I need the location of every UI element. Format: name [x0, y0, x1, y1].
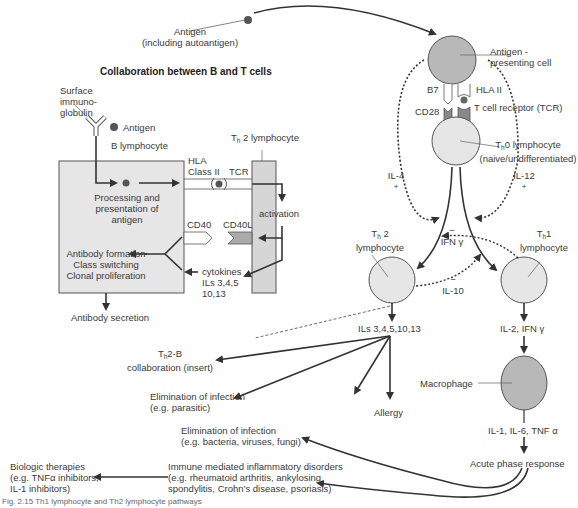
cd40-label: CD40 — [187, 219, 211, 230]
cd40l-label: CD40L — [223, 219, 253, 230]
acute-phase-label: Acute phase response — [470, 458, 565, 469]
antigen-dot-icon — [110, 123, 118, 131]
imid-label: Immune mediated inflammatory disorders(e… — [168, 461, 343, 494]
il4-label: IL-4+ — [381, 170, 411, 192]
to-elim-parasitic-arrow — [235, 336, 390, 398]
macrophage-cytokines-label: IL-1, IL-6, TNF α — [488, 425, 558, 436]
ifn-gamma-label: −IFN γ — [437, 225, 467, 247]
processing-label: Processing andpresentation ofantigen — [92, 192, 162, 225]
insert-antigen-label: Antigen — [123, 122, 155, 133]
th2-cytokines-label: ILs 3,4,5,10,13 — [358, 323, 421, 334]
b7-label: B7 — [427, 84, 439, 95]
to-th2b-arrow — [217, 336, 390, 360]
b-lymphocyte-label: B lymphocyte — [111, 140, 168, 151]
th2-lymphocyte-box — [252, 161, 276, 293]
antigen-presenting-cell — [428, 36, 476, 84]
antibody-secretion-label: Antibody secretion — [71, 312, 149, 323]
th1-label: Th1 lymphocyte — [514, 228, 574, 253]
th0-label: Th0 lymphocyte (naive/undifferentiated) — [478, 139, 578, 164]
hla-class-ii-label: HLAClass II — [188, 155, 220, 177]
activation-label: activation — [259, 208, 299, 219]
to-imid-arrow — [318, 468, 528, 497]
allergy-label: Allergy — [374, 407, 403, 418]
cd40-molecule — [184, 232, 212, 244]
antigen-dot-icon — [244, 16, 252, 24]
cd40l-molecule — [228, 232, 252, 244]
apc-label: Antigen -presenting cell — [490, 46, 551, 68]
insert-cytokines-label: cytokinesILs 3,4,510,13 — [202, 266, 242, 299]
th1-lymphocyte — [501, 257, 547, 303]
th1-cytokines-label: IL-2, IFN γ — [500, 323, 544, 334]
hla-ii-molecule — [458, 84, 470, 97]
figure-caption: Fig. 2.15 Th1 lymphocyte and Th2 lymphoc… — [2, 496, 202, 507]
insert-th2-label: Th 2 lymphocyte — [231, 132, 299, 146]
th2-lymphocyte — [369, 257, 415, 303]
il10-label: −IL-10 — [438, 274, 468, 296]
elim-bacteria-label: Elimination of infection(e.g. bacteria, … — [181, 425, 301, 447]
insert-tcr-label: TCR — [229, 166, 249, 177]
biologic-therapies-label: Biologic therapies(e.g. TNFα inhibitors,… — [10, 461, 99, 494]
antigen-to-apc-arrow — [254, 6, 435, 34]
th2-label: Th 2 lymphocyte — [350, 228, 410, 253]
insert-title: Collaboration between B and T cells — [100, 66, 272, 77]
antibody-functions-label: Antibody formationClass switchingClonal … — [66, 248, 146, 281]
b7-molecule — [444, 84, 452, 104]
antigen-label: Antigen(including autoantigen) — [130, 26, 250, 48]
th2b-collaboration-label: Th2-B collaboration (insert) — [125, 348, 215, 373]
surface-ig-label: Surfaceimmuno-globulin — [60, 85, 97, 118]
hla-ii-label: HLA II — [476, 84, 502, 95]
il12-label: IL-12+ — [509, 170, 539, 192]
th0-lymphocyte — [432, 117, 480, 165]
elim-parasitic-label: Elimination of infection(e.g. parasitic) — [150, 391, 245, 413]
cd28-label: CD28 — [415, 106, 439, 117]
tcr-label: T cell receptor (TCR) — [474, 102, 563, 113]
macrophage-label: Macrophage — [420, 378, 473, 389]
